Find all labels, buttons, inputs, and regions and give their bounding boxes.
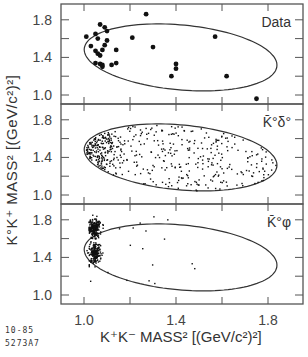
panel-3: 1.01.41.8K̄°φ (33, 204, 303, 304)
panel-label: K̄°δ° (263, 114, 291, 130)
y-tick-label: 1.4 (33, 249, 53, 265)
dalitz-plot-figure: 1.01.41.8Data1.01.41.8K̄°δ°1.01.41.8K̄°φ… (0, 0, 308, 357)
y-tick-label: 1.4 (33, 149, 53, 165)
panel-2: 1.01.41.8K̄°δ° (33, 104, 303, 204)
y-tick-label: 1.0 (33, 87, 53, 103)
y-axis-label: K°K⁺ MASS² [(GeV/c²)²] (2, 40, 22, 280)
x-axis-label: K⁺K⁻ MASS² [(GeV/c²)²] (100, 328, 262, 346)
panel-label: Data (261, 14, 291, 30)
figure-id-date: 10-85 (5, 326, 34, 335)
y-tick-label: 1.4 (33, 49, 53, 65)
figure-id-number: 5273A7 (5, 339, 40, 348)
panel-1: 1.01.41.8Data (33, 4, 303, 104)
y-tick-label: 1.8 (33, 112, 53, 128)
x-tick-label: 1.8 (258, 312, 278, 328)
y-tick-label: 1.0 (33, 187, 53, 203)
y-tick-label: 1.0 (33, 287, 53, 303)
y-tick-label: 1.8 (33, 12, 53, 28)
panel-label: K̄°φ (267, 214, 291, 230)
kinematic-boundary (84, 24, 277, 91)
x-tick-label: 1.4 (166, 312, 186, 328)
x-tick-label: 1.0 (74, 312, 94, 328)
y-tick-label: 1.8 (33, 212, 53, 228)
kinematic-boundary (84, 224, 277, 291)
